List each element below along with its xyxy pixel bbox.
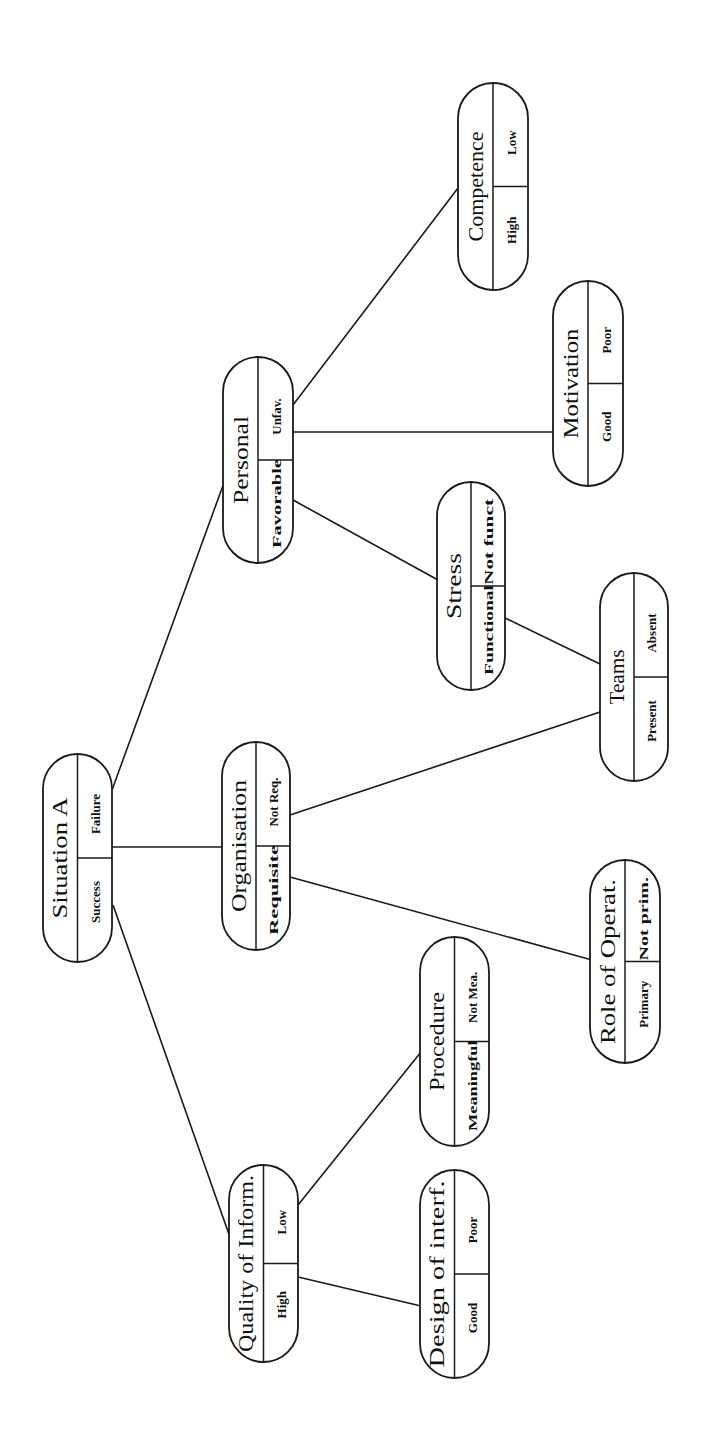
node-value-right: Low (274, 1209, 289, 1234)
node-title: Situation A (47, 797, 72, 918)
node-value-right: Low (504, 130, 519, 155)
edge-stress-to-teams (505, 618, 600, 664)
node-value-right: Poor (465, 1216, 480, 1243)
node-title: Quality of Inform. (233, 1175, 258, 1352)
node-motivation: MotivationGoodPoor (553, 281, 623, 486)
node-value-right: Not Mea. (465, 972, 480, 1023)
node-title: Organisation (226, 780, 251, 912)
node-title: Role of Operat. (595, 879, 620, 1044)
edges-layer (112, 188, 600, 1306)
edge-personal-to-competence (293, 188, 458, 405)
node-competence: CompetenceHighLow (458, 83, 528, 290)
edge-quality-of-inform-to-procedure (298, 1052, 421, 1205)
edge-situation-a-to-personal (112, 480, 225, 790)
node-value-right: Failure (88, 794, 103, 834)
node-value-left: Present (644, 700, 659, 742)
edge-organisation-to-teams (290, 712, 600, 815)
node-title: Competence (463, 132, 488, 242)
node-role-of-operat: Role of Operat.PrimaryNot prim. (590, 860, 660, 1063)
edge-personal-to-stress (293, 500, 438, 580)
node-value-left: Favorable (269, 459, 284, 548)
edge-quality-of-inform-to-design-of-interf (298, 1277, 421, 1306)
decision-tree-diagram: Situation ASuccessFailurePersonalFavorab… (0, 0, 713, 1441)
node-teams: TeamsPresentAbsent (600, 573, 668, 781)
node-title: Motivation (558, 329, 583, 439)
node-title: Personal (228, 416, 253, 504)
node-quality-of-inform: Quality of Inform.HighLow (229, 1165, 298, 1362)
node-stress: StressFunctionalNot funct (437, 482, 505, 690)
node-value-left: Good (599, 411, 614, 442)
node-title: Procedure (424, 992, 449, 1091)
node-value-left: Good (465, 1302, 480, 1333)
node-title: Teams (604, 650, 629, 705)
node-value-left: High (504, 216, 519, 244)
node-value-right: Unfav. (269, 398, 284, 434)
node-value-right: Absent (644, 613, 659, 653)
node-title: Design of interf. (424, 1181, 449, 1368)
node-design-of-interf: Design of interf.GoodPoor (420, 1170, 489, 1378)
node-value-left: Functional (481, 584, 496, 675)
node-value-left: Requisite (266, 845, 281, 935)
node-value-left: Meaningful (465, 1040, 480, 1131)
node-value-left: Success (88, 881, 103, 923)
node-personal: PersonalFavorableUnfav. (223, 357, 293, 563)
node-value-right: Not funct (481, 498, 496, 585)
node-organisation: OrganisationRequisiteNot Req. (222, 742, 290, 950)
node-situation-a: Situation ASuccessFailure (43, 754, 112, 962)
node-value-left: High (274, 1290, 289, 1318)
node-procedure: ProcedureMeaningfulNot Mea. (420, 937, 489, 1146)
node-value-right: Not Req. (266, 777, 281, 826)
nodes-layer: Situation ASuccessFailurePersonalFavorab… (43, 83, 668, 1378)
node-value-right: Not prim. (636, 877, 651, 961)
node-title: Stress (441, 553, 466, 619)
node-value-right: Poor (599, 327, 614, 354)
edge-situation-a-to-quality-of-inform (113, 905, 231, 1240)
node-value-left: Primary (636, 980, 651, 1027)
